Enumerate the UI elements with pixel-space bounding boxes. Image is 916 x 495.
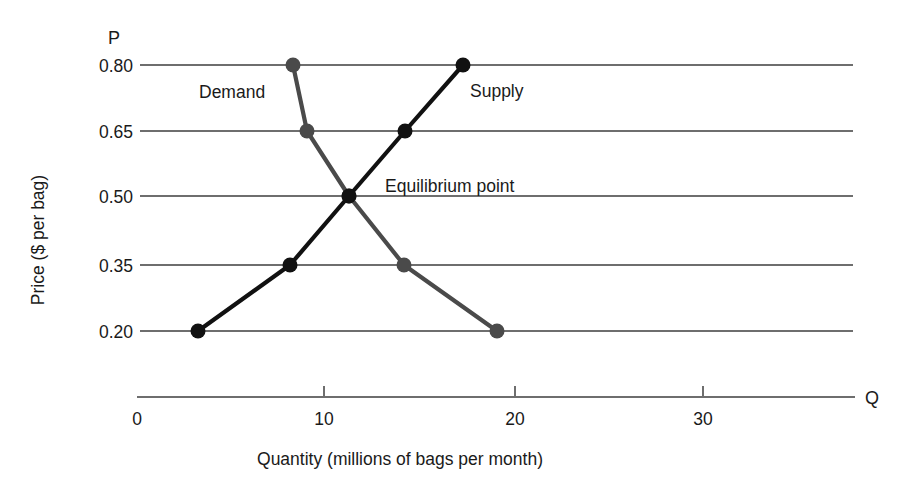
- equilibrium-point-label: Equilibrium point: [385, 176, 515, 196]
- supply-point-0: [191, 324, 206, 339]
- demand-point-0: [286, 58, 301, 73]
- demand-point-4: [490, 324, 505, 339]
- y-tick-label-0.50: 0.50: [99, 187, 133, 207]
- chart-canvas: 0.80 0.65 0.50 0.35 0.20 0 10 20 30 P Q …: [0, 0, 916, 495]
- x-tick-label-30: 30: [693, 409, 713, 429]
- x-tick-label-20: 20: [505, 409, 525, 429]
- x-tick-labels: 0 10 20 30: [132, 409, 713, 429]
- supply-point-1: [283, 258, 298, 273]
- y-tick-label-0.35: 0.35: [99, 256, 133, 276]
- supply-point-3: [398, 124, 413, 139]
- demand-line: [293, 65, 497, 331]
- supply-demand-chart: 0.80 0.65 0.50 0.35 0.20 0 10 20 30 P Q …: [0, 0, 916, 495]
- y-axis-title: Price ($ per bag): [28, 175, 48, 305]
- y-tick-label-0.80: 0.80: [99, 56, 133, 76]
- y-tick-label-0.20: 0.20: [99, 322, 133, 342]
- y-tick-labels: 0.80 0.65 0.50 0.35 0.20: [99, 56, 133, 342]
- x-tick-label-0: 0: [132, 409, 142, 429]
- supply-point-2: [342, 189, 357, 204]
- supply-series-label: Supply: [470, 81, 524, 101]
- gridlines: [140, 65, 853, 331]
- x-axis-title: Quantity (millions of bags per month): [257, 449, 543, 469]
- demand-point-3: [397, 258, 412, 273]
- y-axis-symbol: P: [108, 28, 120, 48]
- x-axis: [137, 386, 855, 397]
- x-tick-label-10: 10: [314, 409, 334, 429]
- demand-point-1: [300, 124, 315, 139]
- supply-point-4: [456, 58, 471, 73]
- demand-series-label: Demand: [199, 82, 265, 102]
- x-axis-symbol: Q: [865, 388, 879, 408]
- supply-line: [198, 65, 463, 331]
- y-tick-label-0.65: 0.65: [99, 122, 133, 142]
